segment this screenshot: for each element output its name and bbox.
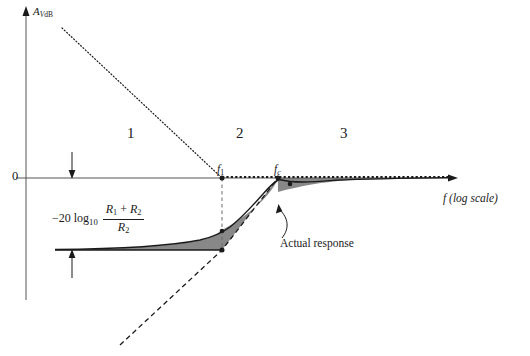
fc-marker-label: fc — [274, 164, 281, 177]
gain-formula-num-r1: R — [106, 202, 113, 216]
dotted-falling-asymptote — [62, 28, 222, 178]
fc-marker-sub: c — [277, 168, 280, 177]
gain-formula-num-r2-sub: 2 — [137, 208, 141, 217]
gain-formula-den-r2-sub: 2 — [125, 226, 129, 235]
marker-fc-curve — [288, 182, 293, 187]
gain-formula-lead-text: −20 log — [52, 211, 89, 225]
actual-response-leader — [276, 204, 287, 238]
gain-formula-fraction: R1 + R2 R2 — [103, 203, 145, 236]
axes-group — [16, 6, 458, 300]
y-axis-label: AVdB — [33, 6, 53, 19]
upper-shaded-wedge — [278, 178, 452, 192]
actual-response-leader-line — [280, 210, 287, 238]
bode-plot-canvas — [0, 0, 530, 356]
gain-formula-lead: −20 log10 — [52, 212, 98, 226]
y-axis-label-main: A — [33, 5, 40, 17]
region-label-2: 2 — [236, 126, 244, 141]
gain-formula-denominator: R2 — [115, 220, 132, 236]
marker-f1-plateau — [220, 248, 225, 253]
marker-f1-curve — [220, 229, 225, 234]
zero-db-tick-label: 0 — [12, 170, 18, 183]
gain-formula-lead-sub: 10 — [89, 217, 98, 227]
y-axis-arrowhead — [23, 6, 30, 16]
gain-formula-numerator: R1 + R2 — [103, 203, 145, 219]
f1-marker-sub: 1 — [220, 168, 224, 177]
actual-response-annotation: Actual response — [280, 238, 354, 250]
x-axis-label: f (log scale) — [443, 193, 498, 205]
gain-attenuation-formula: −20 log10 R1 + R2 R2 — [52, 203, 144, 236]
region-label-1: 1 — [127, 126, 135, 141]
bode-plot-figure: AVdB f (log scale) 0 1 2 3 f1 fc Actual … — [0, 0, 530, 356]
y-axis-label-sub-db: dB — [44, 10, 53, 19]
gain-formula-num-plus-sign: + — [120, 202, 127, 216]
region-label-3: 3 — [340, 126, 348, 141]
x-axis-label-text: f (log scale) — [443, 192, 498, 204]
f1-marker-label: f1 — [217, 164, 224, 177]
